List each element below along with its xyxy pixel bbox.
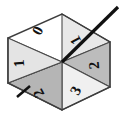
sector-label-0: 0 [29,24,47,38]
sector-label-5: 1 [11,59,28,68]
hexagon-wheel-svg: 0 1 2 3 2 1 [0,0,124,115]
hexagon-figure: 0 1 2 3 2 1 [0,0,124,115]
sector-label-2: 2 [86,61,103,70]
